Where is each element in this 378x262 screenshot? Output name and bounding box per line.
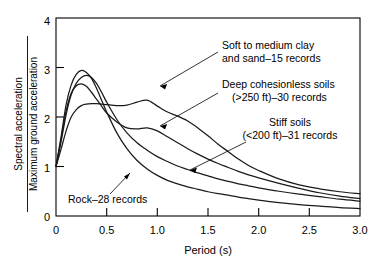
- x-tick-label: 0.5: [99, 224, 114, 236]
- annotation-stiff-soils-line2: (<200 ft)–31 records: [243, 129, 338, 141]
- x-tick-label: 2.0: [251, 224, 266, 236]
- annotation-soft-clay-line1: Soft to medium clay: [222, 39, 315, 51]
- x-tick-label: 2.5: [302, 224, 317, 236]
- x-tick-label: 1.0: [150, 224, 165, 236]
- x-tick-label: 3.0: [352, 224, 367, 236]
- x-tick-label: 1.5: [200, 224, 215, 236]
- annotation-deep-cohesionless-line2: (>250 ft)–30 records: [232, 91, 327, 103]
- y-tick-label: 3: [44, 64, 50, 76]
- annotation-rock-line1: Rock–28 records: [68, 193, 147, 205]
- y-tick-label: 4: [44, 15, 50, 27]
- y-axis-label-numerator: Spectral acceleration: [13, 77, 24, 170]
- annotation-soft-clay-line2: and sand–15 records: [222, 52, 321, 64]
- annotation-stiff-soils-line1: Stiff soils: [269, 116, 311, 128]
- x-axis-title: Period (s): [184, 244, 232, 256]
- y-axis-label-denominator: Maximum ground acceleration: [28, 57, 39, 191]
- chart-figure: Spectral acceleration Maximum ground acc…: [0, 0, 378, 262]
- y-tick-label: 2: [44, 113, 50, 125]
- x-tick-label: 0: [53, 224, 59, 236]
- y-tick-label: 1: [44, 162, 50, 174]
- annotation-deep-cohesionless-line1: Deep cohesionless soils: [222, 78, 335, 90]
- y-tick-label: 0: [44, 211, 50, 223]
